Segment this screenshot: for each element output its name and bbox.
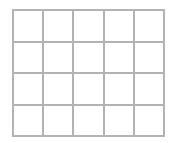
grid-cell <box>13 10 43 42</box>
grid-cell <box>134 42 164 74</box>
grid-cell <box>104 105 134 137</box>
grid-cell <box>43 73 73 105</box>
grid-cell <box>43 42 73 74</box>
grid-cell <box>134 105 164 137</box>
grid-cell <box>73 42 103 74</box>
grid-cell <box>134 10 164 42</box>
grid-cell <box>13 105 43 137</box>
grid-cell <box>43 105 73 137</box>
grid-cell <box>13 42 43 74</box>
grid-cell <box>134 73 164 105</box>
grid-cell <box>73 105 103 137</box>
grid-cell <box>13 73 43 105</box>
grid-cell <box>104 10 134 42</box>
grid-cell <box>104 42 134 74</box>
empty-grid-table <box>12 9 165 137</box>
grid-cell <box>73 10 103 42</box>
grid-cell <box>43 10 73 42</box>
grid-cell <box>104 73 134 105</box>
grid-cell <box>73 73 103 105</box>
